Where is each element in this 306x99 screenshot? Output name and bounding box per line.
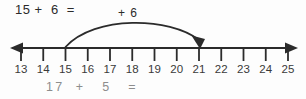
tick-label: 16 xyxy=(76,63,100,75)
bottom-equation: 17 + 5 = xyxy=(46,80,138,94)
tick-label: 20 xyxy=(165,63,189,75)
jump-arc xyxy=(66,23,200,47)
tick-label: 18 xyxy=(120,63,144,75)
tick-label: 13 xyxy=(9,63,33,75)
tick-label: 24 xyxy=(254,63,278,75)
right-arrowhead xyxy=(285,43,298,54)
jump-arc-arrow xyxy=(66,23,206,49)
tick-label: 17 xyxy=(98,63,122,75)
tick-label: 14 xyxy=(31,63,55,75)
tick-label: 15 xyxy=(54,63,78,75)
tick-label: 22 xyxy=(209,63,233,75)
tick-label: 19 xyxy=(143,63,167,75)
number-line-worksheet: 15 + 6 = + 6 13141516171819202122232425 … xyxy=(0,0,306,99)
tick-label: 25 xyxy=(276,63,300,75)
tick-label: 21 xyxy=(187,63,211,75)
tick-label: 23 xyxy=(232,63,256,75)
